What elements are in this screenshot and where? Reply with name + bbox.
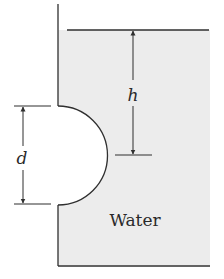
diameter-dimension-d: d [14,106,51,204]
water-label: Water [109,210,161,230]
tank-diagram: h d Water [0,0,224,279]
depth-label: h [128,85,139,105]
diameter-label: d [17,148,28,168]
